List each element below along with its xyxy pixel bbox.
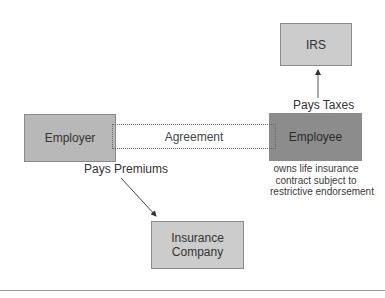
irs-label: IRS	[306, 38, 326, 52]
employee-note: owns life insurance contract subject to …	[270, 163, 362, 198]
agreement-box: Agreement	[112, 124, 276, 149]
bottom-divider	[0, 290, 385, 291]
pays-premiums-arrow	[121, 178, 156, 216]
pays-taxes-label: Pays Taxes	[293, 98, 354, 112]
employee-note-line1: owns life insurance	[270, 163, 362, 175]
pays-premiums-label: Pays Premiums	[84, 162, 168, 176]
employee-note-line2: contract subject to	[270, 175, 362, 187]
employee-node: Employee	[269, 113, 362, 161]
irs-node: IRS	[280, 23, 352, 66]
employee-note-line3: restrictive endorsement	[270, 186, 362, 198]
insurance-label-line1: Insurance	[171, 231, 224, 245]
agreement-label: Agreement	[165, 130, 224, 144]
insurance-label-line2: Company	[172, 245, 223, 259]
insurance-company-node: Insurance Company	[151, 221, 244, 269]
employee-label: Employee	[289, 130, 342, 144]
employer-node: Employer	[24, 114, 116, 162]
employer-label: Employer	[45, 131, 96, 145]
